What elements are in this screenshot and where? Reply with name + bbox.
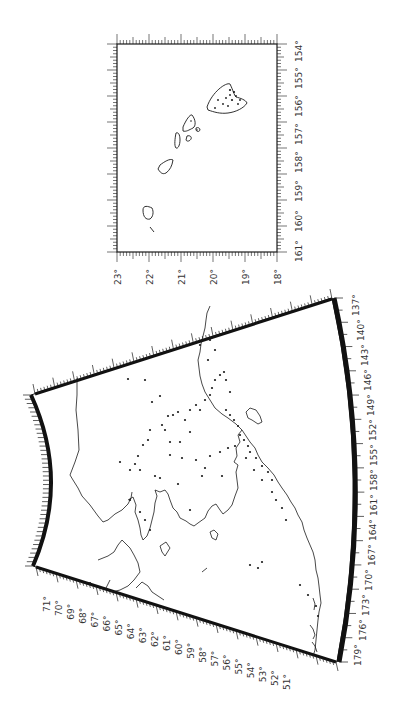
alaska-lat-label: 57° bbox=[210, 651, 220, 667]
alaska-lat-label: 58° bbox=[198, 647, 208, 663]
alaska-coastline bbox=[70, 306, 321, 656]
hawaii-lon-label: 160° bbox=[294, 210, 304, 232]
alaska-lat-label: 55° bbox=[234, 658, 244, 674]
alaska-south-arc bbox=[334, 298, 355, 662]
island-molokai bbox=[175, 133, 180, 148]
island-maui bbox=[183, 115, 195, 131]
hawaii-lon-label: 159° bbox=[294, 180, 304, 202]
hawaii-islands bbox=[143, 84, 247, 232]
alaska-lat-label: 64° bbox=[126, 623, 136, 639]
alaska-lat-label: 60° bbox=[174, 639, 184, 655]
alaska-lat-label: 68° bbox=[78, 608, 88, 624]
station-maps-figure: 23° 22° 21° 20° 19° 18° 161° 160° 159° 1… bbox=[0, 0, 395, 704]
alaska-lat-label: 53° bbox=[258, 666, 268, 682]
island-niihau bbox=[150, 227, 154, 232]
alaska-lat-label: 70° bbox=[54, 600, 64, 616]
alaska-lon-label: 164° bbox=[368, 519, 378, 541]
hawaii-lat-label: 18° bbox=[273, 269, 283, 285]
alaska-latitude-labels: 71°70°69°68°67°66°65°64°63°62°61°60°59°5… bbox=[42, 596, 292, 690]
alaska-lon-label: 137° bbox=[351, 294, 361, 316]
alaska-lat-label: 56° bbox=[222, 655, 232, 671]
alaska-lat-label: 71° bbox=[42, 596, 52, 612]
hawaii-latitude-labels: 23° 22° 21° 20° 19° 18° bbox=[113, 269, 283, 285]
alaska-lat-label: 69° bbox=[66, 604, 76, 620]
alaska-lat-label: 62° bbox=[150, 631, 160, 647]
alaska-lat-label: 66° bbox=[102, 616, 112, 632]
hawaii-lon-label: 161° bbox=[294, 240, 304, 262]
alaska-lon-label: 155° bbox=[369, 444, 379, 466]
alaska-lon-label: 149° bbox=[366, 394, 376, 416]
alaska-lat-label: 59° bbox=[186, 643, 196, 659]
hawaii-lat-label: 22° bbox=[145, 269, 155, 285]
alaska-lon-label: 167° bbox=[367, 544, 377, 566]
hawaii-tick-marks bbox=[107, 34, 287, 262]
alaska-lon-label: 179° bbox=[353, 644, 363, 666]
alaska-lon-label: 146° bbox=[363, 369, 373, 391]
alaska-lat-label: 65° bbox=[114, 619, 124, 635]
alaska-lon-label: 173° bbox=[361, 594, 371, 616]
alaska-map: 71°70°69°68°67°66°65°64°63°62°61°60°59°5… bbox=[23, 289, 379, 690]
hawaii-lat-label: 19° bbox=[241, 269, 251, 285]
hawaii-map: 23° 22° 21° 20° 19° 18° 161° 160° 159° 1… bbox=[107, 34, 304, 285]
hawaii-map-frame bbox=[117, 44, 277, 252]
alaska-lat-label: 67° bbox=[90, 612, 100, 628]
alaska-lon-label: 152° bbox=[368, 419, 378, 441]
hawaii-lon-label: 156° bbox=[294, 95, 304, 117]
island-hawaii bbox=[207, 84, 247, 114]
alaska-lat-label: 54° bbox=[246, 662, 256, 678]
alaska-map-frame bbox=[31, 298, 353, 662]
hawaii-lat-label: 20° bbox=[209, 269, 219, 285]
island-oahu bbox=[158, 159, 173, 173]
alaska-lat-label: 51° bbox=[282, 674, 292, 690]
hawaii-stations bbox=[190, 89, 241, 131]
alaska-lon-label: 170° bbox=[364, 569, 374, 591]
hawaii-lon-label: 158° bbox=[294, 151, 304, 173]
hawaii-lat-label: 21° bbox=[177, 269, 187, 285]
alaska-lon-label: 140° bbox=[356, 319, 366, 341]
alaska-lon-label: 158° bbox=[369, 469, 379, 491]
island-kauai bbox=[143, 206, 153, 219]
hawaii-lon-label: 154° bbox=[294, 40, 304, 62]
alaska-lon-label: 143° bbox=[360, 344, 370, 366]
alaska-lat-label: 63° bbox=[138, 627, 148, 643]
hawaii-longitude-labels: 161° 160° 159° 158° 157° 156° 155° 154° bbox=[294, 40, 304, 262]
alaska-lat-label: 61° bbox=[162, 635, 172, 651]
alaska-lon-label: 161° bbox=[369, 494, 379, 516]
hawaii-lon-label: 155° bbox=[294, 67, 304, 89]
alaska-lon-label: 176° bbox=[358, 619, 368, 641]
island-lanai bbox=[186, 136, 191, 141]
hawaii-lon-label: 157° bbox=[294, 123, 304, 145]
alaska-lat-label: 52° bbox=[270, 670, 280, 686]
hawaii-lat-label: 23° bbox=[113, 269, 123, 285]
alaska-stations bbox=[89, 339, 319, 617]
